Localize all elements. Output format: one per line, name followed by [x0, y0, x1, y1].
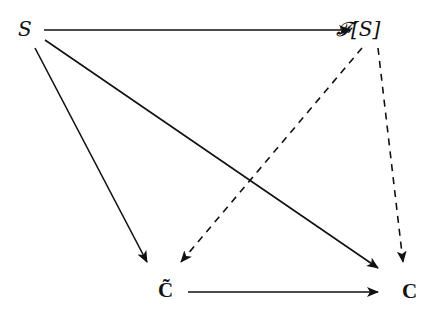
- arrow-s-to-ctilde: [35, 48, 147, 262]
- script-f: 𝓕: [336, 17, 351, 41]
- diagram-arrows: [0, 0, 439, 313]
- bracket-s: [S]: [351, 17, 380, 41]
- node-c-tilde: C̃: [158, 280, 173, 301]
- node-f-of-s: 𝓕[S]: [336, 19, 380, 39]
- node-s: S: [18, 19, 32, 39]
- node-c: C: [402, 281, 417, 302]
- arrow-s-to-c: [45, 40, 378, 268]
- arrow-fs-to-ctilde: [181, 48, 362, 262]
- arrow-fs-to-c: [378, 48, 403, 262]
